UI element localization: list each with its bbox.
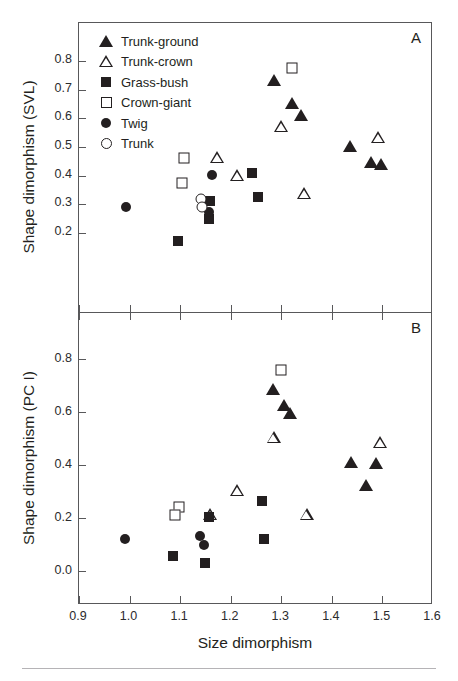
data-point-grass-bush — [204, 512, 214, 522]
x-tick — [382, 596, 383, 603]
x-tick — [281, 305, 282, 312]
data-point-trunk-ground — [359, 479, 373, 491]
data-point-crown-giant — [287, 63, 298, 74]
data-point-twig — [199, 540, 209, 550]
y-tick-label: 0.6 — [55, 404, 72, 418]
x-tick — [332, 305, 333, 312]
legend: Trunk-ground Trunk-crown Grass-bush Crow… — [95, 31, 199, 154]
x-tick — [332, 596, 333, 603]
data-point-grass-bush — [168, 551, 178, 561]
data-point-trunk-ground — [369, 457, 383, 469]
x-tick — [231, 305, 232, 312]
y-tick-label: 0.8 — [55, 351, 72, 365]
legend-item-trunk-crown: Trunk-crown — [95, 52, 199, 73]
open-circle-icon — [95, 138, 117, 149]
x-tick-label: 1.0 — [109, 609, 149, 623]
x-tick — [231, 596, 232, 603]
filled-square-icon — [95, 77, 117, 87]
legend-item-grass-bush: Grass-bush — [95, 72, 199, 93]
x-tick — [180, 596, 181, 603]
data-point-grass-bush — [200, 558, 210, 568]
data-point-trunk-crown — [210, 151, 224, 163]
data-point-crown-giant — [179, 153, 190, 164]
legend-item-twig: Twig — [95, 113, 199, 134]
panel-b-y-axis-title: Shape dimorphism (PC I) — [19, 312, 37, 603]
data-point-trunk-crown — [371, 131, 385, 143]
data-point-trunk-crown — [300, 508, 314, 520]
data-point-trunk-crown — [267, 431, 281, 443]
y-tick-label: 0.6 — [55, 109, 72, 123]
panel-b: B — [78, 313, 432, 604]
y-tick — [79, 147, 86, 148]
y-tick — [79, 412, 86, 413]
y-tick-label: 0.4 — [55, 167, 72, 181]
x-tick-label: 1.2 — [210, 609, 250, 623]
legend-label: Grass-bush — [117, 75, 188, 90]
x-tick-label: 1.4 — [311, 609, 351, 623]
y-tick-label: 0.3 — [55, 195, 72, 209]
data-point-twig — [121, 202, 131, 212]
y-tick — [79, 61, 86, 62]
x-tick — [180, 305, 181, 312]
y-tick — [79, 518, 86, 519]
x-tick — [79, 596, 80, 603]
data-point-trunk-ground — [294, 109, 308, 121]
open-triangle-icon — [95, 55, 117, 68]
y-tick-label: 0.7 — [55, 81, 72, 95]
data-point-trunk-crown — [230, 484, 244, 496]
y-tick-label: 0.2 — [55, 510, 72, 524]
y-tick-label: 0.5 — [55, 138, 72, 152]
data-point-trunk-ground — [267, 74, 281, 86]
y-tick — [79, 359, 86, 360]
data-point-grass-bush — [247, 168, 257, 178]
x-tick — [180, 313, 181, 320]
x-tick — [281, 596, 282, 603]
legend-item-trunk-ground: Trunk-ground — [95, 31, 199, 52]
y-tick-label: 0.2 — [55, 224, 72, 238]
x-tick — [382, 313, 383, 320]
bottom-rule — [22, 668, 436, 669]
y-tick — [79, 176, 86, 177]
data-point-trunk-ground — [283, 407, 297, 419]
legend-item-crown-giant: Crown-giant — [95, 93, 199, 114]
panel-a: A Trunk-ground Trunk-crown Grass-bush Cr… — [78, 22, 432, 313]
legend-label: Trunk-crown — [117, 54, 193, 69]
filled-circle-icon — [95, 118, 117, 128]
y-tick — [79, 90, 86, 91]
data-point-crown-giant — [177, 178, 188, 189]
data-point-twig — [207, 170, 217, 180]
x-tick — [382, 305, 383, 312]
data-point-grass-bush — [259, 534, 269, 544]
legend-item-trunk: Trunk — [95, 134, 199, 155]
y-tick — [79, 571, 86, 572]
x-axis-title: Size dimorphism — [78, 634, 432, 652]
legend-label: Twig — [117, 116, 148, 131]
open-square-icon — [95, 97, 117, 108]
data-point-trunk-ground — [266, 383, 280, 395]
x-tick-label: 1.1 — [159, 609, 199, 623]
filled-triangle-icon — [95, 35, 117, 48]
x-tick-label: 1.6 — [412, 609, 452, 623]
x-tick — [281, 313, 282, 320]
panel-a-letter: A — [411, 29, 421, 46]
panel-b-letter: B — [411, 319, 421, 336]
y-tick-label: 0.4 — [55, 457, 72, 471]
data-point-grass-bush — [253, 192, 263, 202]
data-point-trunk-crown — [230, 169, 244, 181]
legend-label: Trunk — [117, 136, 154, 151]
x-tick-label: 1.3 — [260, 609, 300, 623]
data-point-trunk-ground — [344, 456, 358, 468]
data-point-grass-bush — [257, 496, 267, 506]
data-point-trunk-ground — [374, 158, 388, 170]
x-tick — [332, 313, 333, 320]
panel-b-plot-area — [79, 313, 431, 603]
x-tick-label: 1.5 — [361, 609, 401, 623]
data-point-trunk-ground — [343, 140, 357, 152]
panel-a-y-axis-title: Shape dimorphism (SVL) — [19, 21, 37, 312]
x-tick — [79, 305, 80, 312]
data-point-crown-giant — [170, 509, 181, 520]
x-tick-label: 0.9 — [58, 609, 98, 623]
x-tick — [130, 305, 131, 312]
y-tick — [79, 233, 86, 234]
legend-label: Crown-giant — [117, 95, 191, 110]
